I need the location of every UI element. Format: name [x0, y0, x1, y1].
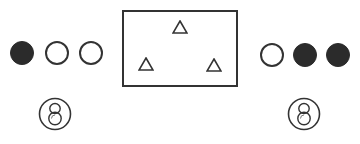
left-dot-1	[10, 41, 34, 65]
right-eight-badge-icon	[287, 97, 321, 131]
right-dot-1	[260, 43, 284, 67]
right-dot-2	[293, 43, 317, 67]
left-eight-badge-icon	[38, 97, 72, 131]
triangle-top-icon	[172, 20, 188, 34]
left-dot-2	[45, 41, 69, 65]
right-dot-3	[326, 43, 350, 67]
diagram-stage	[0, 0, 360, 144]
triangle-bottom-left-icon	[138, 57, 154, 71]
left-dot-3	[79, 41, 103, 65]
triangle-bottom-right-icon	[206, 58, 222, 72]
